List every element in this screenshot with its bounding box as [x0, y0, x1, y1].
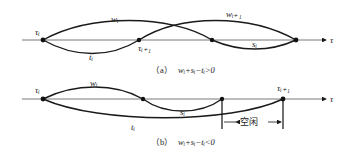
tau-i-label-a: τᵢ — [35, 27, 40, 37]
s-i-label-b: sᵢ — [180, 107, 186, 117]
w-i-arc-b — [43, 87, 143, 99]
panel-b: τ 空闲 τᵢ τᵢ₊₁ wᵢ sᵢ tᵢ （b） wᵢ+sᵢ−tᵢ<0 — [22, 78, 334, 147]
caption-tag-b: （b） — [151, 137, 173, 147]
tau-i1-label-b: τᵢ₊₁ — [277, 83, 290, 93]
w-i1-label-a: wᵢ₊₁ — [226, 9, 242, 19]
t-i-label-b: tᵢ — [131, 122, 136, 132]
panel-a: τ τᵢ τᵢ₊₁ wᵢ wᵢ₊₁ tᵢ sᵢ （a） wᵢ+sᵢ−tᵢ>0 — [22, 9, 334, 75]
tau-i1-node-a — [137, 38, 141, 42]
w-i-label-a: wᵢ — [111, 14, 119, 24]
tau-i-label-b: τᵢ — [35, 85, 40, 95]
tau-i1-label-a: τᵢ₊₁ — [138, 43, 151, 53]
idle-label: 空闲 — [240, 116, 258, 127]
mid-node-b — [141, 97, 145, 101]
caption-tag-a: （a） — [151, 65, 173, 75]
timing-diagram: τ τᵢ τᵢ₊₁ wᵢ wᵢ₊₁ tᵢ sᵢ （a） wᵢ+sᵢ−tᵢ>0 τ — [0, 0, 356, 156]
t-i-label-a: tᵢ — [89, 52, 94, 62]
s-i-label-a: sᵢ — [252, 39, 258, 49]
caption-expr-a: wᵢ+sᵢ−tᵢ>0 — [178, 65, 216, 75]
axis-label-b: τ — [330, 94, 334, 104]
tau-i-node-b — [41, 97, 46, 102]
end-node-a — [294, 38, 299, 43]
caption-expr-b: wᵢ+sᵢ−tᵢ<0 — [178, 137, 216, 147]
w-i-arc-a — [43, 21, 212, 41]
axis-label-a: τ — [330, 35, 334, 45]
mid-node-a — [210, 38, 214, 42]
w-i-label-b: wᵢ — [90, 78, 98, 88]
tau-i-node-a — [41, 38, 46, 43]
